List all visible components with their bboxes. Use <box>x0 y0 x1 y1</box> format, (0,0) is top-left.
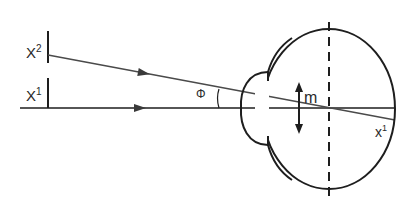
x1-label: X1 <box>26 86 42 104</box>
x2-label: X2 <box>26 43 42 61</box>
x1-retina-label: x1 <box>375 123 387 140</box>
phi-label: Φ <box>196 87 206 101</box>
axis-arrowhead-icon <box>134 104 146 112</box>
oblique-arrowhead-icon <box>137 68 150 78</box>
m-arrow-up-icon <box>295 82 303 92</box>
m-label: m <box>304 89 317 106</box>
phi-angle-arc <box>218 89 220 108</box>
oblique-ray <box>48 55 395 120</box>
m-arrow-down-icon <box>295 124 303 134</box>
eye-optics-diagram: X2 X1 Φ m x1 <box>0 0 419 204</box>
